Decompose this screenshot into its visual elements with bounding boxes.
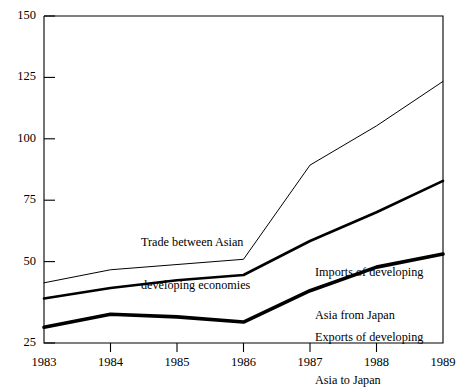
x-tick-label-1984: 1984 — [88, 356, 134, 369]
y-tick-label-150: 150 — [2, 9, 36, 22]
x-tick-label-1986: 1986 — [221, 356, 267, 369]
annotation-trade-line1: Trade between Asian — [141, 235, 250, 249]
y-tick-label-100: 100 — [2, 132, 36, 145]
annotation-exports-line1: Exports of developing — [315, 330, 423, 344]
y-tick-label-25: 25 — [2, 336, 36, 349]
annotation-trade-line2: developing economies — [141, 278, 250, 292]
x-tick-label-1983: 1983 — [21, 356, 67, 369]
y-axis-ticks — [44, 16, 55, 343]
y-tick-label-50: 50 — [2, 255, 36, 268]
annotation-exports-line2: Asia to Japan — [315, 373, 423, 387]
y-tick-label-75: 75 — [2, 193, 36, 206]
x-tick-label-1989: 1989 — [420, 356, 466, 369]
y-tick-label-125: 125 — [2, 70, 36, 83]
annotation-trade-between-asian-developing-economies: Trade between Asian developing economies — [141, 206, 250, 321]
x-tick-label-1985: 1985 — [154, 356, 200, 369]
annotation-imports-line1: Imports of developing — [315, 265, 423, 279]
annotation-exports-of-developing-asia-to-japan: Exports of developing Asia to Japan — [315, 301, 423, 391]
